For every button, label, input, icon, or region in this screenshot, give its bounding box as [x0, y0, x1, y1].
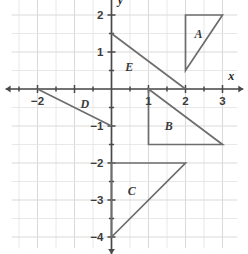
x-axis-label: x — [227, 69, 234, 83]
x-tick-label: −2 — [31, 95, 44, 107]
x-tick-label: 2 — [182, 95, 188, 107]
shape-label-a: A — [193, 27, 202, 41]
shape-label-b: B — [164, 119, 173, 133]
axis-arrow-left — [6, 86, 11, 93]
x-tick-label: 3 — [219, 95, 225, 107]
coordinate-plane-figure: −212321−1−2−3−4xyABCDE — [0, 0, 248, 254]
y-tick-label: −4 — [90, 231, 104, 243]
y-tick-label: −2 — [90, 157, 103, 169]
y-axis-label: y — [116, 0, 124, 7]
axis-arrow-right — [238, 86, 243, 93]
x-tick-label: 1 — [145, 95, 152, 107]
shape-label-e: E — [124, 60, 133, 74]
axis-arrow-down — [108, 249, 115, 254]
y-tick-label: 1 — [97, 46, 104, 58]
plot-svg: −212321−1−2−3−4xyABCDE — [0, 0, 248, 254]
y-tick-label: 2 — [97, 9, 103, 21]
shape-label-c: C — [128, 184, 137, 198]
grid-lines — [12, 0, 238, 248]
shape-label-d: D — [80, 97, 90, 111]
y-tick-label: −1 — [90, 120, 104, 132]
y-tick-label: −3 — [90, 194, 103, 206]
